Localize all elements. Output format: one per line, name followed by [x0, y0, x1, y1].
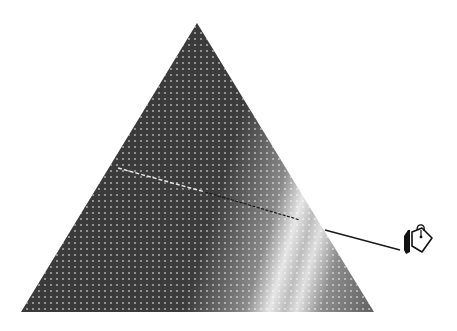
drawing-canvas[interactable] — [0, 0, 457, 331]
paint-bucket-icon — [404, 225, 432, 254]
triangle-shape[interactable] — [0, 0, 457, 331]
